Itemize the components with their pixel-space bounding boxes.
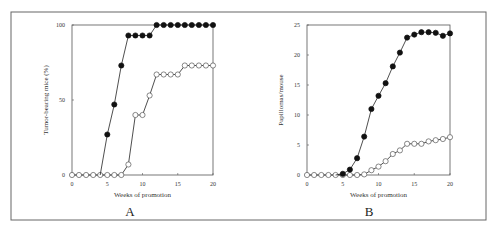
open-circle-marker bbox=[369, 168, 374, 173]
filled-circle-marker bbox=[140, 33, 145, 38]
open-circle-marker bbox=[126, 162, 131, 167]
filled-circle-marker bbox=[126, 33, 131, 38]
x-tick-label: 5 bbox=[341, 181, 344, 187]
open-circle-marker bbox=[203, 63, 208, 68]
open-circle-marker bbox=[390, 151, 395, 156]
open-circle-marker bbox=[154, 72, 159, 77]
open-circle-marker bbox=[376, 164, 381, 169]
x-tick-label: 10 bbox=[376, 181, 382, 187]
open-circle-marker bbox=[312, 172, 317, 177]
x-tick-label: 5 bbox=[106, 181, 109, 187]
figure-canvas: 05101520050100Weeks of promotionTumor-be… bbox=[0, 0, 495, 233]
filled-circle-marker bbox=[168, 22, 173, 27]
filled-circle-marker bbox=[383, 81, 388, 86]
filled-circle-marker bbox=[161, 22, 166, 27]
x-tick-label: 0 bbox=[306, 181, 309, 187]
x-axis-label: Weeks of promotion bbox=[350, 191, 407, 199]
open-circle-marker bbox=[355, 172, 360, 177]
y-axis-label: Papillomas/mouse bbox=[277, 74, 285, 125]
open-circle-marker bbox=[69, 172, 74, 177]
filled-circle-marker bbox=[390, 64, 395, 69]
open-circle-marker bbox=[182, 63, 187, 68]
x-tick-label: 15 bbox=[411, 181, 417, 187]
y-tick-label: 10 bbox=[294, 112, 300, 118]
open-circle-marker bbox=[147, 93, 152, 98]
y-tick-label: 15 bbox=[294, 82, 300, 88]
open-circle-marker bbox=[161, 72, 166, 77]
figure: 05101520050100Weeks of promotionTumor-be… bbox=[0, 0, 495, 233]
filled-circle-marker bbox=[112, 102, 117, 107]
y-tick-label: 0 bbox=[297, 172, 300, 178]
open-circle-marker bbox=[112, 172, 117, 177]
open-circle-marker bbox=[119, 172, 124, 177]
figure-frame bbox=[11, 12, 486, 220]
filled-circle-marker bbox=[203, 22, 208, 27]
open-circle-marker bbox=[447, 135, 452, 140]
open-circle-marker bbox=[168, 72, 173, 77]
x-axis-label: Weeks of promotion bbox=[114, 191, 171, 199]
filled-circle-marker bbox=[440, 33, 445, 38]
x-tick-label: 15 bbox=[175, 181, 181, 187]
y-tick-label: 50 bbox=[59, 97, 65, 103]
open-circle-marker bbox=[383, 159, 388, 164]
x-tick-label: 10 bbox=[140, 181, 146, 187]
open-circle-marker bbox=[347, 172, 352, 177]
x-tick-label: 20 bbox=[210, 181, 216, 187]
y-axis-label: Tumor-bearing mice (%) bbox=[42, 65, 50, 135]
open-circle-marker bbox=[397, 148, 402, 153]
plot-area bbox=[72, 25, 213, 175]
filled-circle-marker bbox=[154, 22, 159, 27]
open-circle-marker bbox=[189, 63, 194, 68]
chart-a: 05101520050100Weeks of promotionTumor-be… bbox=[42, 22, 216, 199]
filled-circle-marker bbox=[405, 35, 410, 40]
y-tick-label: 5 bbox=[297, 142, 300, 148]
filled-circle-marker bbox=[133, 33, 138, 38]
open-circle-marker bbox=[433, 138, 438, 143]
open-circle-marker bbox=[175, 72, 180, 77]
panel-label-b: B bbox=[365, 204, 374, 219]
open-circle-marker bbox=[362, 172, 367, 177]
series-line-open bbox=[72, 66, 213, 176]
open-circle-marker bbox=[76, 172, 81, 177]
x-tick-label: 0 bbox=[71, 181, 74, 187]
x-tick-label: 20 bbox=[447, 181, 453, 187]
open-circle-marker bbox=[304, 172, 309, 177]
open-circle-marker bbox=[426, 139, 431, 144]
filled-circle-marker bbox=[376, 93, 381, 98]
filled-circle-marker bbox=[196, 22, 201, 27]
filled-circle-marker bbox=[369, 106, 374, 111]
y-tick-label: 0 bbox=[62, 172, 65, 178]
filled-circle-marker bbox=[182, 22, 187, 27]
filled-circle-marker bbox=[347, 167, 352, 172]
y-tick-label: 25 bbox=[294, 22, 300, 28]
filled-circle-marker bbox=[147, 33, 152, 38]
open-circle-marker bbox=[412, 141, 417, 146]
open-circle-marker bbox=[140, 112, 145, 117]
open-circle-marker bbox=[440, 136, 445, 141]
open-circle-marker bbox=[84, 172, 89, 177]
plot-area bbox=[307, 25, 450, 175]
filled-circle-marker bbox=[340, 171, 345, 176]
y-tick-label: 20 bbox=[294, 52, 300, 58]
filled-circle-marker bbox=[447, 31, 452, 36]
filled-circle-marker bbox=[210, 22, 215, 27]
filled-circle-marker bbox=[355, 156, 360, 161]
series-line-filled bbox=[100, 25, 213, 175]
filled-circle-marker bbox=[412, 32, 417, 37]
filled-circle-marker bbox=[426, 30, 431, 35]
open-circle-marker bbox=[105, 172, 110, 177]
open-circle-marker bbox=[210, 63, 215, 68]
y-tick-label: 100 bbox=[56, 22, 65, 28]
filled-circle-marker bbox=[189, 22, 194, 27]
filled-circle-marker bbox=[105, 132, 110, 137]
open-circle-marker bbox=[319, 172, 324, 177]
filled-circle-marker bbox=[419, 30, 424, 35]
open-circle-marker bbox=[419, 141, 424, 146]
filled-circle-marker bbox=[119, 63, 124, 68]
open-circle-marker bbox=[196, 63, 201, 68]
open-circle-marker bbox=[405, 141, 410, 146]
open-circle-marker bbox=[326, 172, 331, 177]
chart-b: 051015200510152025Weeks of promotionPapi… bbox=[277, 22, 453, 199]
open-circle-marker bbox=[133, 112, 138, 117]
filled-circle-marker bbox=[175, 22, 180, 27]
